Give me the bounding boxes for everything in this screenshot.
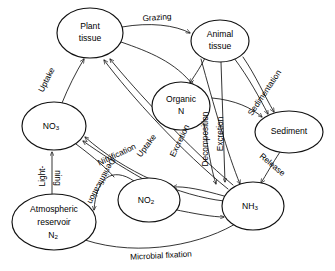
edge-plant-to-organic-n — [121, 42, 193, 85]
edge-uptake-no3-to-plant — [62, 59, 84, 103]
node-organic-n-label-line1: Organic — [166, 94, 197, 104]
edge-label-uptake-left: Uptake — [36, 65, 57, 93]
edge-grazing — [122, 25, 190, 33]
node-sediment-label: Sediment — [271, 126, 308, 136]
node-sediment[interactable]: Sediment — [255, 111, 323, 153]
node-no2[interactable]: NO2 — [118, 178, 180, 222]
node-atmospheric-reservoir-label-line1: Atmospheric — [30, 204, 78, 214]
edge-animal-to-organic-n — [190, 58, 205, 83]
node-animal-tissue[interactable]: Animal tissue — [191, 20, 249, 62]
node-atmospheric-reservoir[interactable]: Atmospheric reservoir N2 — [12, 194, 96, 250]
edge-label-lightning-part1: Light- — [37, 165, 47, 186]
edge-label-sedimentation: Sedimentation — [245, 67, 283, 117]
node-animal-tissue-label-line1: Animal — [207, 29, 233, 39]
edge-no2-to-nh3 — [172, 209, 224, 217]
edge-microbial-fixation — [85, 221, 240, 248]
cycle-diagram-canvas: Plant tissue Animal tissue Organic N Sed… — [0, 0, 335, 271]
nodes-layer: Plant tissue Animal tissue Organic N Sed… — [12, 8, 323, 250]
node-nh3[interactable]: NH3 — [222, 182, 284, 230]
node-animal-tissue-label-line2: tissue — [209, 41, 232, 51]
edge-label-release: Release — [258, 151, 288, 178]
edge-label-excretion-right: Excretion — [215, 116, 225, 151]
node-plant-tissue-label-line2: tissue — [79, 33, 102, 43]
edge-label-uptake-center: Uptake — [134, 132, 158, 159]
node-atmospheric-reservoir-label-line2: reservoir — [37, 217, 71, 227]
node-organic-n-label-line2: N — [178, 106, 184, 116]
edge-label-lightning-part2: ning — [53, 170, 63, 186]
edge-label-grazing: Grazing — [142, 11, 172, 23]
edge-label-decomposition: Decomposition — [200, 111, 210, 166]
node-no3[interactable]: NO3 — [22, 102, 86, 150]
node-plant-tissue[interactable]: Plant tissue — [57, 8, 123, 58]
nitrogen-cycle-diagram: Plant tissue Animal tissue Organic N Sed… — [0, 0, 335, 271]
edge-label-microbial-fixation: Microbial fixation — [130, 249, 193, 262]
node-plant-tissue-label-line1: Plant — [80, 21, 100, 31]
